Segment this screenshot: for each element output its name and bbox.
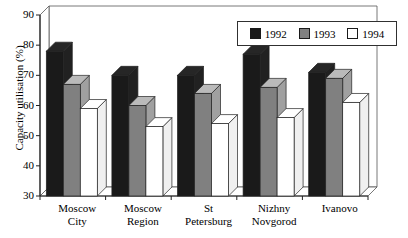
x-axis-category-labels: MoscowCityMoscowRegionStPetersburgNizhny… — [0, 200, 408, 238]
bar-1994-2 — [212, 124, 229, 196]
legend: 1992 1993 1994 — [237, 21, 397, 46]
bar-1993-1 — [129, 106, 146, 197]
bar-1992-1 — [112, 75, 129, 196]
x-category-line1: Ivanovo — [295, 202, 385, 215]
x-category-line2: Novgorod — [229, 215, 319, 228]
legend-swatch-1993 — [299, 28, 310, 39]
legend-swatch-1992 — [250, 28, 261, 39]
bar-1994-3-side — [294, 109, 303, 196]
bar-1992-2 — [178, 75, 195, 196]
legend-label-1994: 1994 — [362, 28, 384, 40]
bar-1992-0 — [46, 51, 63, 196]
x-category-label-4: Ivanovo — [295, 202, 385, 215]
legend-item-1993[interactable]: 1993 — [299, 28, 336, 40]
bar-1994-2-side — [229, 115, 238, 196]
bar-1992-4 — [309, 72, 326, 196]
bar-1993-4 — [326, 78, 343, 196]
bar-1994-0-side — [97, 100, 106, 196]
bar-1994-4 — [343, 102, 360, 196]
bar-1994-1 — [146, 127, 163, 196]
bar-1993-2 — [195, 93, 212, 196]
bar-1993-0 — [63, 84, 80, 196]
bar-1994-1-side — [163, 118, 172, 196]
legend-swatch-1994 — [347, 28, 358, 39]
bar-1992-3 — [243, 54, 260, 196]
legend-label-1993: 1993 — [314, 28, 336, 40]
bar-1993-3 — [260, 87, 277, 196]
bar-1994-0 — [80, 109, 97, 196]
legend-label-1992: 1992 — [265, 28, 287, 40]
bar-1994-4-side — [360, 93, 369, 196]
legend-item-1994[interactable]: 1994 — [347, 28, 384, 40]
bar-1994-3 — [277, 118, 294, 196]
legend-item-1992[interactable]: 1992 — [250, 28, 287, 40]
chart-container: Capacity utilisation (%) 90807060504030 … — [0, 0, 408, 238]
